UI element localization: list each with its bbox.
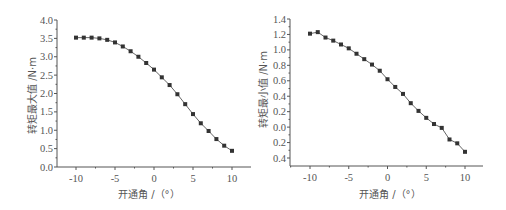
data-point-marker	[82, 36, 86, 40]
y-tick-label: 4.0	[40, 15, 53, 26]
data-point-marker	[113, 40, 117, 44]
y-axis-label: 转矩最大值 /N·m	[24, 41, 39, 151]
data-point-marker	[432, 122, 436, 126]
x-tick-label: -5	[111, 173, 120, 184]
data-point-marker	[74, 36, 78, 40]
chart-torque-min: 0.40.20.00.20.40.60.81.01.21.4-10-50510 …	[253, 0, 506, 210]
x-tick-label: 10	[460, 172, 471, 183]
x-tick-label: -10	[69, 173, 83, 184]
y-tick-label: 1.4	[273, 14, 287, 25]
x-tick-label: 5	[424, 172, 429, 183]
data-point-marker	[424, 116, 428, 120]
data-point-marker	[136, 55, 140, 59]
data-point-marker	[378, 69, 382, 73]
x-tick-label: 0	[151, 173, 156, 184]
data-point-marker	[121, 44, 125, 48]
data-point-marker	[152, 68, 156, 72]
y-axis-label: 转矩最小值 /N·m	[255, 35, 270, 145]
data-point-marker	[401, 92, 405, 96]
data-point-marker	[207, 129, 211, 133]
data-point-marker	[463, 150, 467, 154]
data-point-marker	[386, 77, 390, 81]
data-point-marker	[160, 75, 164, 79]
data-point-marker	[183, 102, 187, 106]
data-point-marker	[168, 83, 172, 87]
series-line	[76, 38, 232, 151]
data-point-marker	[175, 92, 179, 96]
y-tick-label: 0.4	[273, 153, 287, 164]
y-tick-label: 2.0	[40, 88, 53, 99]
y-tick-label: 1.2	[273, 29, 286, 40]
y-tick-label: 0.8	[273, 60, 286, 71]
y-tick-label: 3.5	[40, 33, 53, 44]
data-point-marker	[417, 109, 421, 113]
data-point-marker	[362, 57, 366, 61]
data-point-marker	[316, 30, 320, 34]
data-point-marker	[355, 52, 359, 56]
x-tick-label: -10	[303, 172, 317, 183]
data-point-marker	[191, 112, 195, 116]
x-axis-label: 开通角 /（°）	[359, 186, 421, 201]
x-axis-label: 开通角 /（°）	[118, 186, 180, 201]
y-tick-label: 1.0	[40, 125, 53, 136]
data-point-marker	[230, 149, 234, 153]
data-point-marker	[214, 137, 218, 141]
series-line	[310, 32, 465, 152]
data-point-marker	[199, 121, 203, 125]
y-tick-label: 0.2	[273, 137, 286, 148]
data-point-marker	[222, 144, 226, 148]
data-point-marker	[409, 101, 413, 105]
data-point-marker	[97, 36, 101, 40]
plot-area-torque-min: 0.40.20.00.20.40.60.81.01.21.4-10-50510	[253, 0, 506, 210]
y-tick-label: 0.4	[273, 91, 287, 102]
data-point-marker	[440, 126, 444, 130]
x-tick-label: 5	[190, 173, 195, 184]
data-point-marker	[129, 49, 133, 53]
data-point-marker	[448, 137, 452, 141]
data-point-marker	[308, 32, 312, 36]
x-tick-label: 10	[227, 173, 238, 184]
y-tick-label: 1.0	[273, 44, 286, 55]
data-point-marker	[144, 61, 148, 65]
x-tick-label: 0	[385, 172, 390, 183]
y-tick-label: 0.5	[40, 143, 53, 154]
data-point-marker	[339, 42, 343, 46]
y-tick-label: 2.5	[40, 70, 53, 81]
y-tick-label: 0.6	[273, 75, 286, 86]
chart-torque-max: 0.00.51.01.52.02.53.03.54.0-10-50510 转矩最…	[0, 0, 253, 210]
data-point-marker	[347, 46, 351, 50]
y-tick-label: 0.0	[40, 162, 53, 173]
y-tick-label: 3.0	[40, 51, 53, 62]
x-tick-label: -5	[344, 172, 353, 183]
data-point-marker	[455, 141, 459, 145]
y-tick-label: 1.5	[40, 106, 53, 117]
data-point-marker	[90, 36, 94, 40]
data-point-marker	[105, 38, 109, 42]
y-tick-label: 0.0	[273, 122, 286, 133]
y-tick-label: 0.2	[273, 106, 286, 117]
data-point-marker	[370, 63, 374, 67]
data-point-marker	[393, 85, 397, 89]
data-point-marker	[324, 36, 328, 40]
data-point-marker	[331, 39, 335, 43]
